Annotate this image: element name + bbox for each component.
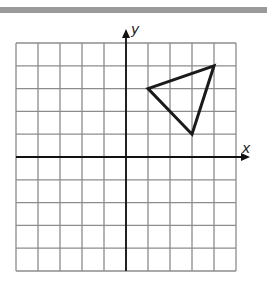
y-axis-label: y bbox=[130, 21, 140, 37]
triangle bbox=[148, 66, 214, 134]
y-axis-arrow-icon bbox=[122, 29, 130, 38]
coordinate-grid: x y bbox=[0, 0, 267, 284]
x-axis-label: x bbox=[241, 140, 251, 156]
